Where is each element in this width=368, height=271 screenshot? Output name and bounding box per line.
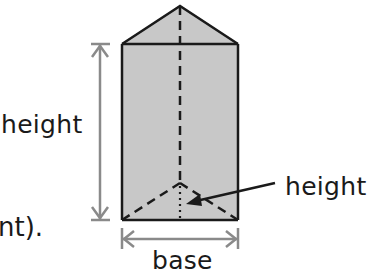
base-label: base [152, 248, 213, 271]
triangle-height-label: height [285, 174, 367, 199]
cropped-text-fragment: nt). [0, 214, 43, 240]
prism-height-label: height [1, 112, 83, 137]
prism-height-dimension [91, 44, 110, 220]
triangular-prism-diagram: height height base nt). [0, 0, 368, 271]
